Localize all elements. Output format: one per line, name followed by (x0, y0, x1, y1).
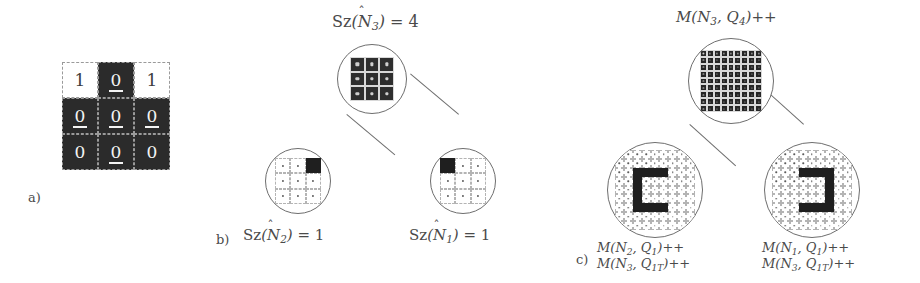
lens-cell-solid (728, 71, 735, 78)
lens-cell-empty (440, 189, 455, 204)
lens-cell-empty (668, 168, 677, 177)
grid-a-cell: 0 (98, 98, 134, 134)
lens-cell-solid (700, 57, 707, 64)
lens-cell-empty (799, 194, 808, 203)
lens-cell-empty (834, 194, 843, 203)
grid-a-cell-value: 1 (147, 72, 158, 89)
lens-cell-solid (741, 71, 748, 78)
grid-a-cell-value: 0 (147, 108, 158, 125)
lens-cell-empty (642, 177, 651, 186)
lens-cell-empty (781, 150, 790, 159)
lens-cell-empty (834, 177, 843, 186)
lens-cell-empty (471, 173, 486, 188)
panel-b-top-label-eq: = 4 (390, 12, 419, 31)
lens-cell-empty (834, 168, 843, 177)
lens-cell-solid (748, 57, 755, 64)
lens-cell-empty (686, 159, 695, 168)
lens-cell-solid (721, 50, 728, 57)
lens-cell-empty (624, 186, 633, 195)
panel-c-tag: c) (576, 252, 588, 267)
lens-cell-solid (714, 64, 721, 71)
lens-cell-empty (633, 221, 642, 230)
panel-c-right-label-2: M(N3, Q1T)++ (762, 256, 855, 274)
lens-cell-solid (365, 72, 380, 87)
lens-cell-solid (741, 98, 748, 105)
lens-cell-empty (825, 150, 834, 159)
lens-cell-empty (624, 159, 633, 168)
lens-cell-empty (290, 189, 305, 204)
lens-cell-solid (728, 50, 735, 57)
lens-cell-empty (642, 212, 651, 221)
panel-b-top-label-arg: N̂ (358, 12, 372, 32)
lens-cell-empty (659, 177, 668, 186)
grid-a-cell: 1 (62, 62, 98, 98)
lens-cell-empty (772, 194, 781, 203)
lens-cell-solid (728, 78, 735, 85)
lens-cell-empty (615, 186, 624, 195)
lens-cell-solid (707, 91, 714, 98)
lens-cell-empty (642, 186, 651, 195)
lens-cell-empty (290, 173, 305, 188)
lens-cell-filled (651, 203, 660, 212)
lens-cell-solid (748, 98, 755, 105)
lens-cell-empty (455, 189, 470, 204)
panel-b-tag: b) (216, 232, 229, 247)
grid-a-cell: 0 (62, 98, 98, 134)
lens-cell-solid (734, 105, 741, 112)
lens-cell-solid (748, 71, 755, 78)
lens-cell-empty (651, 159, 660, 168)
panel-c-top-label: M(N3, Q4)++ (676, 8, 777, 28)
lens-cell-empty (772, 159, 781, 168)
lens-cell-solid (741, 84, 748, 91)
lens-cell-solid (714, 91, 721, 98)
lens-cell-empty (624, 168, 633, 177)
lens-cell-empty (843, 221, 852, 230)
lens-cell-filled (816, 168, 825, 177)
lens-cell-solid (728, 84, 735, 91)
lens-cell-solid (700, 84, 707, 91)
lens-cell-solid (755, 64, 762, 71)
lens-cell-empty (843, 168, 852, 177)
lens-cell-empty (843, 186, 852, 195)
lens-cell-solid (741, 91, 748, 98)
lens-cell-solid (748, 64, 755, 71)
lens-cell-solid (755, 50, 762, 57)
lens-cell-solid (741, 105, 748, 112)
lens-cell-empty (790, 221, 799, 230)
grid-a-cell: 0 (98, 62, 134, 98)
lens-cell-empty (686, 212, 695, 221)
lens-cell-empty (651, 221, 660, 230)
lens-cell-solid (721, 78, 728, 85)
panel-b-connector-left (346, 114, 395, 156)
lens-cell-filled (825, 177, 834, 186)
panel-a-tag: a) (28, 190, 41, 205)
lens-cell-solid (700, 50, 707, 57)
lens-cell-empty (781, 221, 790, 230)
full-occupied-9x9 (700, 50, 762, 112)
lens-cell-solid (707, 71, 714, 78)
lens-cell-empty (808, 194, 817, 203)
lens-cell-empty (808, 177, 817, 186)
lens-cell-empty (825, 221, 834, 230)
lens-cell-solid (748, 78, 755, 85)
grid-a-cell-value: 1 (75, 72, 86, 89)
grid-a-cell-value: 0 (147, 144, 158, 161)
lens-cell-empty (686, 186, 695, 195)
lens-cell-empty (790, 168, 799, 177)
reversed-c-shape-pattern (772, 150, 852, 230)
lens-cell-filled (633, 177, 642, 186)
lens-cell-solid (734, 50, 741, 57)
full-occupied-3x3 (350, 57, 394, 101)
grid-a-cell-value: 0 (75, 108, 86, 125)
lens-cell-solid (755, 98, 762, 105)
lens-cell-empty (808, 150, 817, 159)
panel-b-right-label: Sz(N̂1) = 1 (409, 226, 490, 246)
lens-cell-filled (825, 203, 834, 212)
lens-cell-solid (755, 57, 762, 64)
lens-cell-solid (741, 57, 748, 64)
lens-cell-empty (808, 221, 817, 230)
lens-cell-solid (734, 57, 741, 64)
lens-cell-empty (651, 177, 660, 186)
lens-cell-solid (350, 86, 365, 101)
lens-cell-empty (816, 212, 825, 221)
